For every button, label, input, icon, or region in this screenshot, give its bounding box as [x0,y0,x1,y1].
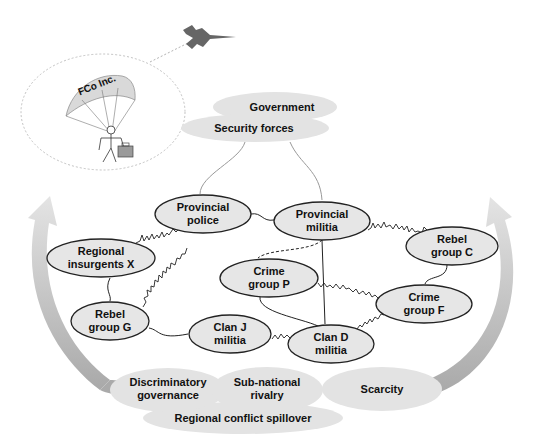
cloud-label: rivalry [250,389,284,401]
node-label: Crime [408,291,439,303]
node-crime-group-p: Crime group P [220,259,318,297]
cloud-label: Regional conflict spillover [175,412,313,424]
node-label: insurgents X [68,258,135,270]
conflict-system-diagram: FCo Inc. Government Security forces [0,0,543,448]
cloud-government-label: Government [250,101,315,113]
external-actor-group: FCo Inc. [21,25,236,170]
cloud-label: Scarcity [361,383,405,395]
airplane-icon [183,25,236,49]
cloud-label: governance [137,389,199,401]
node-rebel-group-c: Rebel group C [406,227,498,265]
node-label: police [187,214,219,226]
node-label: Rebel [95,308,125,320]
node-label: group F [404,304,445,316]
node-label: militia [214,334,247,346]
node-label: Provincial [296,208,349,220]
edge-militia-clanD [322,240,325,324]
node-label: militia [306,221,339,233]
edge-militia-rebelC-conflict [368,222,428,233]
cloud-scarcity: Scarcity [322,367,442,411]
node-label: Regional [78,245,124,257]
cloud-subnational-rivalry: Sub-national rivalry [211,367,323,413]
node-label: group P [248,278,290,290]
node-crime-group-f: Crime group F [376,285,472,323]
briefcase-icon [118,143,133,157]
node-label: group G [89,321,132,333]
edge-rebelG-clanJ [149,328,188,336]
edge-crimeP-crimeF-conflict [318,283,387,300]
edge-security-militia [290,142,322,200]
edge-militia-crimeP-dashed [258,240,322,258]
cloud-discriminatory-governance: Discriminatory governance [110,368,226,412]
edge-insurgentsX-rebelG [108,278,111,301]
cloud-label: Sub-national [234,376,301,388]
node-provincial-police: Provincial police [155,195,251,233]
node-label: Crime [253,265,284,277]
external-actor-boundary [21,54,185,170]
cloud-security-forces-label: Security forces [214,122,293,134]
cloud-security-forces: Security forces [181,114,329,142]
edge-security-police [200,142,245,194]
left-cycle-arrow-icon [28,196,140,395]
edge-rebelC-crimeF [425,265,447,284]
node-label: militia [315,344,348,356]
node-label: group C [431,246,473,258]
node-label: Clan J [213,321,246,333]
node-regional-insurgents-x: Regional insurgents X [47,239,155,277]
node-label: Rebel [437,233,467,245]
edge-police-militia [251,214,274,221]
node-label: Clan D [314,331,349,343]
node-label: Provincial [177,201,230,213]
node-rebel-group-g: Rebel group G [71,302,149,340]
edge-crimeP-clanD [260,297,318,326]
node-provincial-militia: Provincial militia [274,202,370,240]
cloud-label: Discriminatory [129,376,207,388]
node-clan-j-militia: Clan J militia [189,315,271,353]
node-clan-d-militia: Clan D militia [288,325,374,363]
